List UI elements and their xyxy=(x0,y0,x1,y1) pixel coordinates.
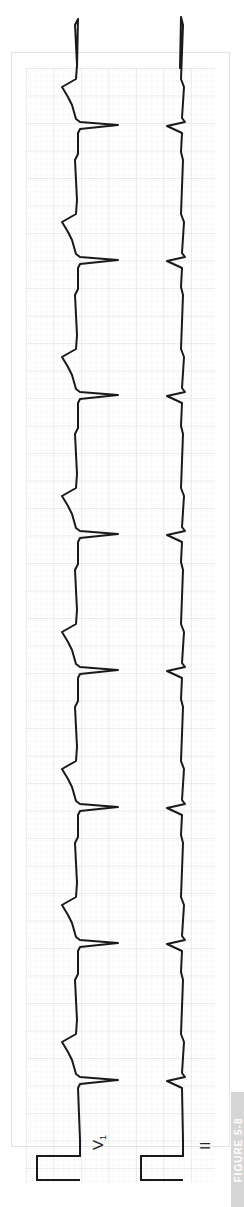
ecg-strip: V1 II xyxy=(0,0,244,1207)
lead-label-ii: II xyxy=(196,1142,213,1150)
figure-label: FIGURE 5-8 xyxy=(231,1092,244,1207)
figure-label-text: FIGURE 5-8 xyxy=(232,1117,243,1182)
ecg-grid xyxy=(26,68,215,1183)
